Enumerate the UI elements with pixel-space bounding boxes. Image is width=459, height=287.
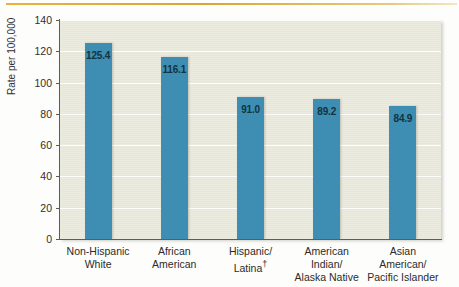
bar-value-label: 116.1 bbox=[161, 64, 188, 75]
category-label: Non-HispanicWhite bbox=[60, 245, 136, 271]
bar-value-label: 91.0 bbox=[237, 104, 264, 115]
y-tick-label: 60 bbox=[12, 140, 52, 151]
page-top-rule bbox=[6, 3, 457, 5]
y-tick-mark bbox=[56, 176, 60, 177]
y-tick-mark bbox=[56, 51, 60, 52]
y-tick-label: 0 bbox=[12, 234, 52, 245]
y-tick-mark bbox=[56, 145, 60, 146]
y-tick-mark bbox=[56, 20, 60, 21]
bar: 125.4 bbox=[85, 43, 112, 239]
figure-container: 125.4116.191.089.284.9 02040608010012014… bbox=[0, 0, 459, 287]
bar-value-label: 89.2 bbox=[313, 106, 340, 117]
bar-value-label: 84.9 bbox=[389, 113, 416, 124]
y-tick-mark bbox=[56, 239, 60, 240]
y-tick-label: 40 bbox=[12, 171, 52, 182]
y-axis-title: Rate per 100,000 bbox=[6, 18, 17, 95]
y-tick-mark bbox=[56, 83, 60, 84]
gridline bbox=[60, 83, 441, 84]
category-label: AmericanIndian/Alaska Native bbox=[289, 245, 365, 284]
category-label: AfricanAmerican bbox=[136, 245, 212, 271]
bar-value-label: 125.4 bbox=[85, 50, 112, 61]
y-tick-label: 120 bbox=[12, 46, 52, 57]
y-tick-label: 20 bbox=[12, 203, 52, 214]
x-axis-line bbox=[59, 239, 442, 240]
bar: 91.0 bbox=[237, 97, 264, 239]
plot-area: 125.4116.191.089.284.9 bbox=[60, 20, 441, 239]
bar: 116.1 bbox=[161, 57, 188, 239]
y-tick-mark bbox=[56, 208, 60, 209]
category-label: Hispanic/Latina† bbox=[212, 245, 288, 275]
y-tick-mark bbox=[56, 114, 60, 115]
category-label: AsianAmerican/Pacific Islander bbox=[365, 245, 441, 284]
bar: 89.2 bbox=[313, 99, 340, 239]
gridline bbox=[60, 51, 441, 52]
gridline bbox=[60, 20, 441, 21]
bar: 84.9 bbox=[389, 106, 416, 239]
y-tick-label: 100 bbox=[12, 78, 52, 89]
y-tick-label: 140 bbox=[12, 15, 52, 26]
y-tick-label: 80 bbox=[12, 109, 52, 120]
